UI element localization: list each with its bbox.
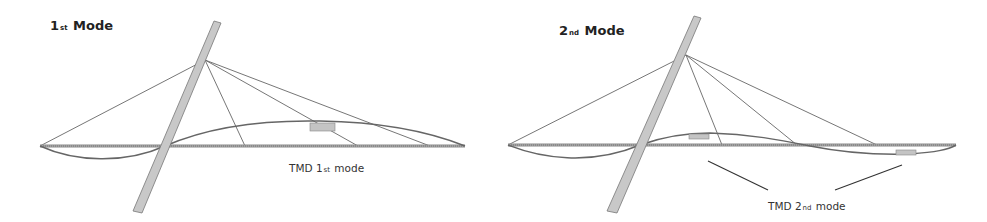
mode1-title: 1st Mode (50, 18, 113, 33)
mode1-tmd-box (310, 123, 335, 131)
mode2-pylon (607, 16, 701, 213)
mode1-cables (40, 60, 430, 146)
mode2-diagram (508, 16, 956, 213)
mode2-tmd-label: TMD 2nd mode (768, 200, 846, 212)
mode1-pylon (133, 21, 221, 213)
mode2-tmd-box-1 (689, 134, 709, 139)
mode1-diagram (40, 21, 465, 213)
mode2-tmd-box-2 (896, 150, 916, 155)
mode2-pointer-line-left (708, 161, 768, 190)
mode1-shape-curve (40, 121, 465, 159)
mode1-tmd-label: TMD 1st mode (289, 162, 364, 174)
mode2-title: 2nd Mode (559, 23, 625, 38)
bridge-mode-diagrams (0, 0, 987, 222)
mode2-pointer-line-right (835, 165, 902, 190)
mode2-cables (508, 55, 877, 145)
